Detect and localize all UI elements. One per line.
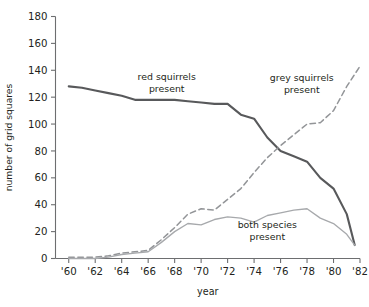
y-tick-label: 140 (28, 65, 47, 76)
y-tick-label: 0 (41, 253, 47, 264)
y-tick-label: 60 (35, 172, 48, 183)
series-line-both (69, 209, 355, 259)
y-axis-title: number of grid squares (3, 84, 14, 192)
y-tick-label: 180 (28, 11, 47, 22)
x-tick-label: '66 (140, 266, 156, 277)
x-axis-tick-labels: '60'62'64'66'68'70'72'74'76'78'80'82 (61, 266, 368, 277)
x-tick-label: '72 (220, 266, 236, 277)
x-axis-ticks (69, 259, 360, 264)
chart-figure: 020406080100120140160180 '60'62'64'66'68… (0, 0, 369, 307)
series-label: present (250, 231, 286, 242)
y-tick-label: 160 (28, 38, 47, 49)
y-tick-label: 100 (28, 119, 47, 130)
x-tick-label: '70 (193, 266, 209, 277)
series-label: present (284, 84, 320, 95)
x-tick-label: '80 (326, 266, 342, 277)
series-annotations: red squirrelspresentgrey squirrelspresen… (138, 71, 334, 242)
data-series-group (69, 66, 360, 258)
x-tick-label: '68 (167, 266, 183, 277)
y-tick-label: 120 (28, 92, 47, 103)
series-label: both species (238, 219, 297, 230)
x-tick-label: '62 (87, 266, 103, 277)
y-tick-label: 40 (35, 199, 48, 210)
series-label: red squirrels (138, 71, 196, 82)
x-tick-label: '82 (352, 266, 368, 277)
line-chart: 020406080100120140160180 '60'62'64'66'68… (0, 0, 369, 307)
y-tick-label: 20 (35, 226, 48, 237)
x-tick-label: '76 (273, 266, 289, 277)
series-label: present (149, 83, 185, 94)
y-axis-tick-labels: 020406080100120140160180 (28, 11, 47, 264)
x-tick-label: '60 (61, 266, 77, 277)
x-tick-label: '64 (114, 266, 130, 277)
series-label: grey squirrels (270, 72, 334, 83)
y-axis-ticks (51, 17, 56, 259)
x-axis-title: year (197, 286, 218, 297)
x-tick-label: '78 (299, 266, 315, 277)
x-tick-label: '74 (246, 266, 262, 277)
y-tick-label: 80 (35, 146, 48, 157)
